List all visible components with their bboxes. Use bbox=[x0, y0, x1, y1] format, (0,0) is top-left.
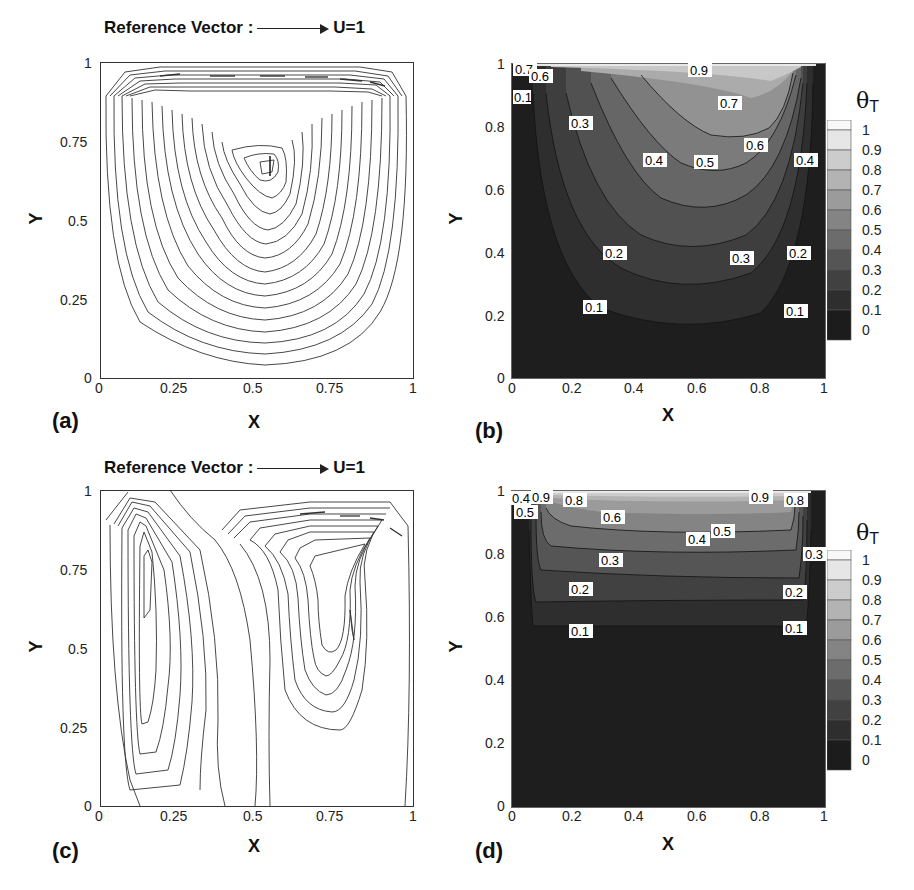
x-tick: 0.4 bbox=[624, 380, 643, 396]
reference-vector-value: U=1 bbox=[333, 458, 365, 477]
reference-vector-label: Reference Vector : bbox=[104, 458, 253, 477]
streamline-plot-a bbox=[100, 62, 415, 380]
y-tick: 0.8 bbox=[485, 546, 504, 562]
y-tick: 0 bbox=[497, 798, 505, 814]
svg-text:0.8: 0.8 bbox=[786, 493, 804, 508]
y-axis-label-b: Y bbox=[446, 212, 467, 224]
y-tick: 0.8 bbox=[485, 119, 504, 135]
panel-label-d: (d) bbox=[475, 838, 503, 864]
reference-vector-value: U=1 bbox=[333, 18, 365, 37]
x-tick: 1 bbox=[820, 380, 828, 396]
colorbar-level: 0.7 bbox=[862, 612, 881, 628]
theta-symbol: θ bbox=[856, 88, 869, 113]
svg-text:0.5: 0.5 bbox=[696, 155, 714, 170]
svg-text:0.6: 0.6 bbox=[603, 510, 621, 525]
svg-text:0.4: 0.4 bbox=[645, 153, 663, 168]
theta-subscript: T bbox=[869, 98, 879, 115]
x-tick: 0 bbox=[95, 808, 103, 824]
reference-vector-label: Reference Vector : bbox=[104, 18, 253, 37]
x-tick: 0.2 bbox=[562, 380, 581, 396]
svg-text:0.7: 0.7 bbox=[720, 96, 738, 111]
svg-text:0.2: 0.2 bbox=[789, 246, 807, 261]
x-axis-label-d: X bbox=[662, 834, 674, 855]
y-tick: 0.25 bbox=[60, 720, 87, 736]
svg-text:0.6: 0.6 bbox=[531, 69, 549, 84]
svg-text:0.3: 0.3 bbox=[732, 251, 750, 266]
y-axis-label-d: Y bbox=[446, 640, 467, 652]
panel-label-c: (c) bbox=[52, 838, 79, 864]
svg-text:0.3: 0.3 bbox=[805, 547, 823, 562]
y-tick: 0.2 bbox=[485, 308, 504, 324]
y-tick: 0.2 bbox=[485, 735, 504, 751]
x-tick: 0.6 bbox=[687, 808, 706, 824]
x-axis-label-c: X bbox=[248, 836, 260, 857]
y-tick: 0.75 bbox=[60, 562, 87, 578]
svg-text:0.9: 0.9 bbox=[751, 490, 769, 505]
x-tick: 0.8 bbox=[750, 380, 769, 396]
y-tick: 1 bbox=[84, 55, 92, 71]
svg-text:0.1: 0.1 bbox=[571, 624, 589, 639]
x-tick: 0.6 bbox=[687, 380, 706, 396]
colorbar-level: 0.3 bbox=[862, 692, 881, 708]
y-tick: 0.6 bbox=[485, 182, 504, 198]
panel-label-a: (a) bbox=[52, 408, 79, 434]
isotherm-plot-b: 0.7 0.6 0.9 0.1 0.7 0.3 0.6 0.4 0.5 0.4 … bbox=[511, 63, 826, 379]
y-tick: 1 bbox=[497, 483, 505, 499]
x-tick: 0.2 bbox=[562, 808, 581, 824]
colorbar-level: 0.2 bbox=[862, 712, 881, 728]
colorbar-level: 1 bbox=[862, 552, 870, 568]
x-tick: 0 bbox=[95, 380, 103, 396]
svg-text:0.2: 0.2 bbox=[605, 246, 623, 261]
x-tick: 0.75 bbox=[316, 808, 343, 824]
svg-text:0.1: 0.1 bbox=[514, 90, 532, 105]
x-tick: 0 bbox=[508, 380, 516, 396]
svg-text:0.4: 0.4 bbox=[796, 153, 814, 168]
theta-subscript: T bbox=[869, 530, 879, 547]
svg-text:0.2: 0.2 bbox=[571, 582, 589, 597]
reference-vector-c: Reference Vector :U=1 bbox=[104, 458, 365, 478]
panel-label-b: (b) bbox=[475, 418, 503, 444]
x-tick: 1 bbox=[409, 380, 417, 396]
y-tick: 0.5 bbox=[68, 641, 87, 657]
colorbar-title-d: θT bbox=[856, 520, 879, 548]
x-tick: 0.8 bbox=[750, 808, 769, 824]
x-tick: 1 bbox=[409, 808, 417, 824]
svg-text:0.1: 0.1 bbox=[585, 300, 603, 315]
colorbar-level: 0.8 bbox=[862, 592, 881, 608]
colorbar-d bbox=[827, 550, 855, 772]
colorbar-level: 0.8 bbox=[862, 162, 881, 178]
svg-text:0.9: 0.9 bbox=[690, 63, 708, 78]
y-tick: 0 bbox=[84, 370, 92, 386]
y-axis-label-c: Y bbox=[26, 640, 47, 652]
colorbar-level: 0.1 bbox=[862, 732, 881, 748]
y-tick: 0.75 bbox=[60, 134, 87, 150]
svg-text:0.1: 0.1 bbox=[785, 621, 803, 636]
svg-text:0.5: 0.5 bbox=[713, 524, 731, 539]
colorbar-level: 0.4 bbox=[862, 672, 881, 688]
x-tick: 0.4 bbox=[624, 808, 643, 824]
svg-text:0.6: 0.6 bbox=[746, 138, 764, 153]
svg-text:0.9: 0.9 bbox=[532, 490, 550, 505]
x-tick: 0.5 bbox=[243, 808, 262, 824]
colorbar-level: 0.4 bbox=[862, 242, 881, 258]
x-tick: 1 bbox=[820, 808, 828, 824]
colorbar-level: 0.2 bbox=[862, 282, 881, 298]
colorbar-level: 1 bbox=[862, 122, 870, 138]
arrow-icon bbox=[257, 24, 329, 34]
theta-symbol: θ bbox=[856, 520, 869, 545]
colorbar-level: 0.9 bbox=[862, 142, 881, 158]
reference-vector-a: Reference Vector :U=1 bbox=[104, 18, 365, 38]
colorbar-level: 0.6 bbox=[862, 202, 881, 218]
colorbar-level: 0.6 bbox=[862, 632, 881, 648]
x-tick: 0.25 bbox=[160, 380, 187, 396]
y-tick: 0 bbox=[497, 370, 505, 386]
svg-text:0.3: 0.3 bbox=[601, 553, 619, 568]
svg-text:0.2: 0.2 bbox=[785, 585, 803, 600]
y-tick: 0.4 bbox=[485, 672, 504, 688]
colorbar-level: 0 bbox=[862, 752, 870, 768]
y-axis-label-a: Y bbox=[26, 212, 47, 224]
colorbar-title-b: θT bbox=[856, 88, 879, 116]
svg-text:0.4: 0.4 bbox=[688, 532, 706, 547]
colorbar-level: 0.3 bbox=[862, 262, 881, 278]
colorbar-level: 0.5 bbox=[862, 222, 881, 238]
